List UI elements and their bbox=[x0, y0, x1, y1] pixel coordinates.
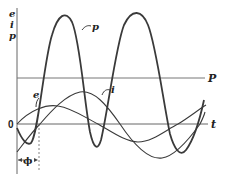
phase-label-phi: ϕ bbox=[23, 155, 32, 166]
y-label-e: e bbox=[9, 8, 15, 19]
phase-arrowhead-right bbox=[34, 158, 38, 162]
curve-label-i: i bbox=[111, 84, 115, 95]
origin-label: 0 bbox=[8, 119, 14, 130]
leader-p bbox=[82, 26, 91, 30]
power-waveform-diagram: e i p 0 t P p i e ϕ bbox=[0, 0, 226, 177]
t-axis-label: t bbox=[211, 118, 216, 131]
y-label-p: p bbox=[9, 30, 16, 41]
curve-label-e: e bbox=[33, 89, 39, 100]
curve-label-p: p bbox=[92, 21, 99, 32]
y-label-i: i bbox=[10, 19, 14, 30]
phase-arrowhead-left bbox=[18, 158, 22, 162]
average-power-label: P bbox=[207, 72, 217, 85]
